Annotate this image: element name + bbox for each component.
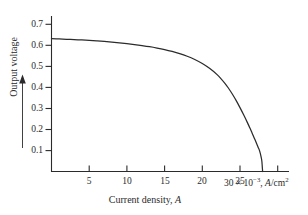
x-tick-label: 20 — [191, 177, 213, 187]
x-unit-square: 2 — [285, 176, 288, 183]
y-tick-label: 0.3 — [21, 104, 43, 114]
figure-iv-curve: 0.7 0.6 0.5 0.4 0.3 0.2 0.1 5 10 15 20 2… — [0, 0, 308, 215]
y-tick-label: 0.4 — [21, 83, 43, 93]
x-axis-caption-text: Current density, — [109, 194, 175, 205]
x-axis-unit-label: 30 × 10−3, A/cm2 — [224, 177, 289, 189]
x-tick-marks — [89, 166, 278, 172]
x-axis-caption-symbol: A — [175, 194, 181, 205]
x-axis-caption: Current density, A — [0, 195, 290, 205]
y-tick-label: 0.7 — [21, 20, 43, 30]
x-tick-label: 10 — [116, 177, 138, 187]
data-curve — [52, 39, 263, 172]
y-tick-label: 0.6 — [21, 41, 43, 51]
x-unit-base: 10 — [244, 178, 254, 188]
x-tick-label: 15 — [154, 177, 176, 187]
y-tick-label: 0.2 — [21, 125, 43, 135]
y-tick-label: 0.1 — [21, 146, 43, 156]
y-axis-caption: Output voltage — [9, 22, 19, 112]
y-tick-label: 0.5 — [21, 62, 43, 72]
y-tick-marks — [46, 24, 52, 150]
x-unit-value: 30 — [224, 178, 234, 188]
x-unit-per-cm: /cm — [271, 178, 285, 188]
x-tick-label: 5 — [78, 177, 100, 187]
